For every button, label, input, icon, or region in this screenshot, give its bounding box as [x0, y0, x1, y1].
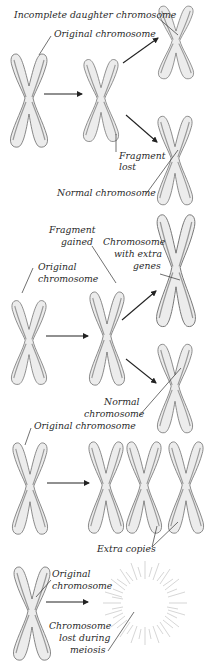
label-lost-3: meiosis — [70, 644, 106, 655]
label-original-2: chromosome — [38, 273, 99, 284]
chromosome-copy-3 — [168, 442, 203, 533]
label-original-1: Original — [52, 568, 90, 579]
burst-icon — [103, 561, 187, 645]
label-normal-1: Normal — [103, 396, 140, 407]
label-extra-genes-3: genes — [133, 260, 161, 271]
label-original-chromosome: Original chromosome — [54, 28, 156, 39]
label-extra-genes-1: Chromosome — [103, 236, 166, 247]
label-fragment-gained-2: gained — [61, 236, 93, 247]
label-fragment-lost-2: lost — [119, 161, 136, 172]
label-extra-genes-2: with extra — [114, 248, 162, 259]
label-lost-1: Chromosome — [49, 620, 112, 631]
label-original-chromosome: Original chromosome — [34, 420, 136, 431]
label-lost-2: lost during — [59, 632, 110, 643]
chromosome-with-extra-genes — [157, 215, 196, 327]
fragment-gained-chromosome — [89, 292, 124, 385]
chromosome-copy-1 — [88, 442, 123, 533]
original-chromosome — [10, 54, 47, 147]
label-fragment-lost-1: Fragment — [118, 150, 166, 161]
panel-duplication: Fragment gained Original chromosome Chro… — [11, 215, 195, 433]
label-incomplete-daughter: Incomplete daughter chromosome — [13, 9, 177, 20]
label-extra-copies: Extra copies — [96, 543, 156, 554]
arrow-icon — [123, 38, 158, 63]
arrow-icon — [122, 291, 156, 320]
original-chromosome — [13, 567, 50, 660]
original-chromosome — [11, 301, 46, 385]
chromosome-copy-2 — [126, 442, 161, 533]
fragment-lost-chromosome — [83, 60, 118, 142]
label-normal-chromosome: Normal chromosome — [56, 187, 156, 198]
arrow-icon — [126, 115, 157, 142]
label-original-2: chromosome — [52, 580, 113, 591]
panel-deletion: Incomplete daughter chromosome Original … — [10, 6, 193, 205]
arrow-icon — [126, 359, 156, 383]
label-fragment-gained-1: Fragment — [48, 224, 96, 235]
chromosome-mutation-diagram: Incomplete daughter chromosome Original … — [0, 0, 207, 667]
panel-loss: Original chromosome Chromosome lost duri… — [13, 561, 187, 660]
original-chromosome — [12, 443, 47, 534]
panel-trisomy: Original chromosome Extra copies — [12, 420, 203, 554]
label-normal-2: chromosome — [84, 408, 145, 419]
label-original-1: Original — [38, 261, 76, 272]
